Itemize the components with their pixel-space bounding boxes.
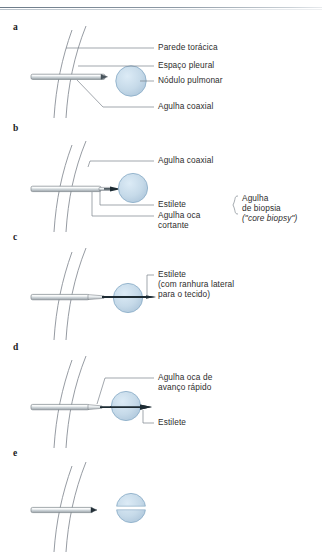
label-estilete-b: Estilete [158,200,186,210]
panel-letter-c: c [13,232,17,242]
panel-letter-e: e [13,448,17,458]
label-agulha-coaxial-b: Agulha coaxial [158,156,213,166]
panel-letter-a: a [13,22,18,32]
header-rule-shadow [0,9,322,10]
label-agulha-oca-avanco-2: avanço rápido [158,383,211,393]
label-espaco-pleural: Espaço pleural [158,61,214,71]
header-rule [0,7,322,8]
label-estilete-d: Estilete [158,418,186,428]
panel-d-graphics [31,356,154,448]
figure-root: a b c d e Parede torácica Espaço pleural… [0,0,322,558]
label-agulha-coaxial-a: Agulha coaxial [158,102,213,112]
label-parede-toracica: Parede torácica [158,43,218,53]
label-agulha-biopsia-3: ("core biopsy") [242,214,297,224]
label-estilete-c-3: para o tecido) [158,290,210,300]
panel-letter-d: d [13,342,18,352]
panel-c-graphics [31,248,156,340]
panel-a-graphics [31,26,154,118]
label-nodulo-pulmonar: Nódulo pulmonar [158,76,223,86]
panel-e-graphics [31,462,146,552]
label-agulha-oca-cortante-2: cortante [158,221,189,231]
panel-letter-b: b [13,123,18,133]
